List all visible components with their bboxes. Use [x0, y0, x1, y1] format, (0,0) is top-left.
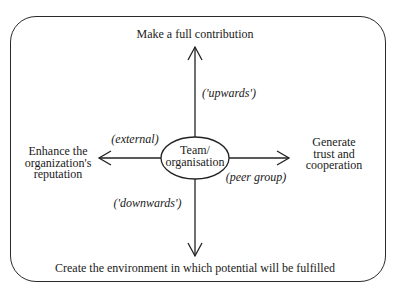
center-label-line2: organisation: [161, 157, 229, 169]
left-goal-line3: reputation: [18, 169, 98, 181]
top-goal-label: Make a full contribution: [95, 29, 295, 41]
bottom-goal-label: Create the environment in which potentia…: [40, 263, 350, 275]
left-goal-label: Enhance the organization's reputation: [18, 146, 98, 181]
external-direction-label: (external): [108, 134, 162, 146]
right-goal-line3: cooperation: [300, 160, 368, 172]
upwards-direction-label: ('upwards'): [194, 88, 264, 100]
center-label: Team/ organisation: [161, 145, 229, 168]
right-goal-label: Generate trust and cooperation: [300, 137, 368, 172]
peer-group-direction-label: (peer group): [222, 172, 290, 184]
downwards-direction-label: ('downwards'): [110, 198, 185, 210]
